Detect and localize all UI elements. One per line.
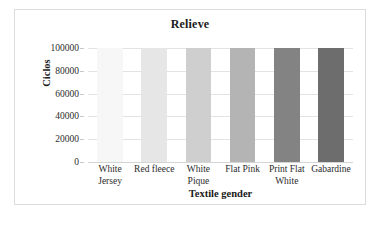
y-tick-mark [80, 162, 84, 163]
x-tick-label: Gabardine [309, 164, 353, 187]
x-axis-tick-labels: White Jersey Red fleece White Pique Flat… [88, 164, 353, 187]
bar-slot [176, 48, 220, 162]
bar-gabardine[interactable] [318, 48, 344, 162]
y-tick-label: 60000 [55, 89, 79, 99]
x-axis-title: Textile gender [88, 188, 353, 199]
bar-red-fleece[interactable] [141, 48, 167, 162]
bar-series [88, 48, 353, 162]
bar-slot [309, 48, 353, 162]
bar-white-jersey[interactable] [97, 48, 123, 162]
chart-frame: Relieve Ciclos 100000 80000 60000 40000 … [14, 9, 366, 205]
y-tick-mark [80, 71, 84, 72]
x-tick-label: Red fleece [132, 164, 176, 187]
y-tick-label: 20000 [55, 134, 79, 144]
y-tick-label: 100000 [51, 43, 80, 53]
bar-slot [88, 48, 132, 162]
x-tick-label: White Jersey [88, 164, 132, 187]
bar-print-flat-white[interactable] [274, 48, 300, 162]
bar-flat-pink[interactable] [230, 48, 256, 162]
y-axis-tick-labels: 100000 80000 60000 40000 20000 0 [35, 48, 84, 162]
x-tick-label: Print Flat White [265, 164, 309, 187]
y-tick-label: 0 [74, 157, 79, 167]
y-tick-mark [80, 139, 84, 140]
y-tick-label: 40000 [55, 111, 79, 121]
chart-title: Relieve [15, 17, 365, 32]
bar-slot [221, 48, 265, 162]
bar-white-pique[interactable] [186, 48, 212, 162]
y-tick-label: 80000 [55, 66, 79, 76]
x-tick-label: Flat Pink [221, 164, 265, 187]
bar-slot [132, 48, 176, 162]
x-axis-line [88, 162, 353, 163]
plot-area [88, 48, 353, 162]
y-tick-mark [80, 116, 84, 117]
y-tick-mark [80, 48, 84, 49]
y-tick-mark [80, 94, 84, 95]
bar-slot [265, 48, 309, 162]
x-tick-label: White Pique [176, 164, 220, 187]
